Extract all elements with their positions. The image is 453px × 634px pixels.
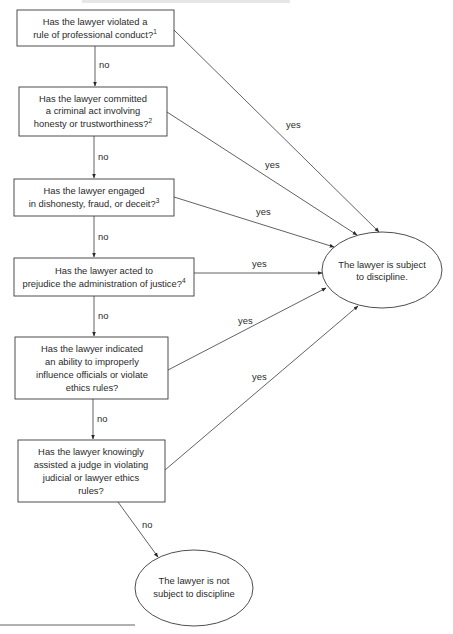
q2-line-3: honesty or trustworthiness?2	[34, 117, 153, 129]
outcome-not-subject-line-2: subject to discipline	[153, 588, 234, 599]
flowchart: Has the lawyer violated a rule of profes…	[0, 0, 453, 634]
question-box-1: Has the lawyer violated a rule of profes…	[17, 10, 174, 46]
no-label-5: no	[97, 413, 107, 424]
no-label-1: no	[99, 59, 109, 70]
no-label-3: no	[98, 231, 108, 242]
yes-label-6: yes	[252, 371, 267, 382]
no-label-6: no	[142, 519, 152, 530]
yes-label-2: yes	[265, 159, 280, 170]
q1-line-1: Has the lawyer violated a	[43, 16, 149, 27]
outcome-subject-line-2: to discipline.	[356, 271, 408, 282]
q5-line-3: influence officials or violate	[36, 369, 148, 380]
question-box-5: Has the lawyer indicated an ability to i…	[15, 337, 168, 399]
outcome-not-subject-line-1: The lawyer is not	[159, 575, 230, 586]
q6-line-3: judicial or lawyer ethics	[42, 472, 140, 483]
question-box-3: Has the lawyer engaged in dishonesty, fr…	[14, 179, 174, 216]
yes-label-5: yes	[238, 315, 253, 326]
q4-line-1: Has the lawyer acted to	[55, 265, 153, 276]
yes-label-1: yes	[286, 119, 301, 130]
q6-line-1: Has the lawyer knowingly	[38, 446, 144, 457]
q6-line-2: assisted a judge in violating	[34, 459, 149, 470]
question-box-2: Has the lawyer committed a criminal act …	[19, 87, 167, 136]
q2-line-2: a criminal act involving	[46, 105, 140, 116]
question-box-6: Has the lawyer knowingly assisted a judg…	[18, 440, 165, 502]
question-box-4: Has the lawyer acted to prejudice the ad…	[14, 258, 194, 296]
q3-line-2: in dishonesty, fraud, or deceit?3	[29, 197, 160, 209]
outcome-not-subject-to-discipline: The lawyer is not subject to discipline	[135, 550, 253, 626]
q4-line-2: prejudice the administration of justice?…	[22, 277, 185, 289]
q2-line-1: Has the lawyer committed	[39, 93, 147, 104]
no-label-2: no	[98, 151, 108, 162]
cropped-header-text	[82, 0, 290, 3]
no-label-4: no	[98, 310, 108, 321]
q5-line-4: ethics rules?	[66, 382, 119, 393]
q1-line-2: rule of professional conduct?1	[33, 28, 157, 40]
outcome-subject-line-1: The lawyer is subject	[338, 259, 426, 270]
yes-label-3: yes	[256, 206, 271, 217]
q5-line-2: an ability to improperly	[45, 356, 139, 367]
outcome-subject-to-discipline: The lawyer is subject to discipline.	[322, 232, 442, 308]
q3-line-1: Has the lawyer engaged	[43, 185, 144, 196]
yes-label-4: yes	[252, 258, 267, 269]
q6-line-4: rules?	[78, 485, 104, 496]
q5-line-1: Has the lawyer indicated	[41, 343, 143, 354]
